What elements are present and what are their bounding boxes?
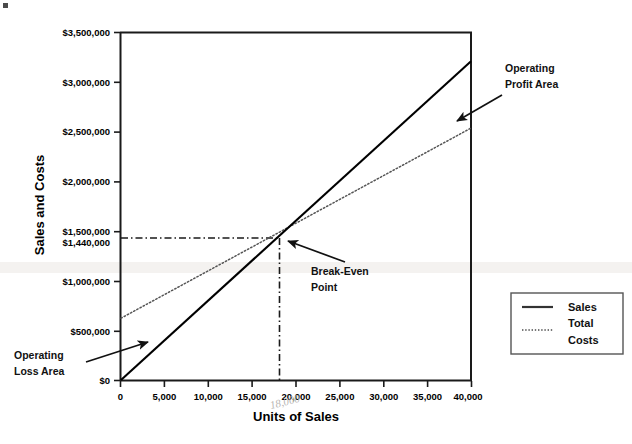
operating-profit-label-line2: Profit Area	[505, 78, 558, 90]
x-axis-ticks	[121, 381, 472, 387]
operating-profit-label-line1: Operating	[505, 62, 555, 74]
x-label-0: 0	[118, 391, 123, 402]
series-total-costs-line	[121, 128, 471, 318]
breakeven-chart: $3,500,000 $3,000,000 $2,500,000 $2,000,…	[0, 0, 632, 444]
break-even-leader-arrow	[288, 241, 345, 262]
y-axis-labels: $3,500,000 $3,000,000 $2,500,000 $2,000,…	[62, 27, 110, 386]
y-label-1000000: $1,000,000	[62, 276, 110, 287]
annotation-operating-loss-area: Operating Loss Area	[14, 342, 148, 377]
operating-loss-label-line2: Loss Area	[14, 365, 65, 377]
break-even-label-line2: Point	[311, 281, 338, 293]
operating-loss-leader-arrow	[86, 342, 148, 362]
break-even-label-line1: Break-Even	[311, 265, 369, 277]
legend-label-total-costs-line1: Total	[568, 317, 593, 329]
y-label-3500000: $3,500,000	[62, 27, 110, 38]
y-axis-title: Sales and Costs	[32, 155, 47, 255]
x-label-10000: 10,000	[194, 391, 223, 402]
y-label-0: $0	[99, 375, 110, 386]
y-label-2000000: $2,000,000	[62, 176, 110, 187]
y-label-2500000: $2,500,000	[62, 126, 110, 137]
y-label-3000000: $3,000,000	[62, 77, 110, 88]
chart-legend: Sales Total Costs	[511, 293, 623, 354]
legend-label-sales: Sales	[568, 301, 597, 313]
x-axis-labels: 0 5,000 10,000 15,000 20,000 25,000 30,0…	[118, 391, 483, 402]
operating-loss-label-line1: Operating	[14, 349, 64, 361]
series-sales-line	[121, 61, 471, 380]
breakeven-chart-screenshot: $3,500,000 $3,000,000 $2,500,000 $2,000,…	[0, 0, 632, 444]
y-label-1500000: $1,500,000	[62, 226, 110, 237]
x-label-35000: 35,000	[413, 391, 442, 402]
x-label-15000: 15,000	[238, 391, 267, 402]
legend-box	[511, 293, 623, 354]
annotation-operating-profit-area: Operating Profit Area	[457, 62, 558, 121]
x-label-5000: 5,000	[153, 391, 177, 402]
x-label-25000: 25,000	[325, 391, 354, 402]
operating-profit-leader-arrow	[457, 95, 502, 121]
x-label-30000: 30,000	[369, 391, 398, 402]
y-label-1440000: $1,440,000	[62, 237, 110, 248]
y-axis-ticks	[114, 33, 120, 381]
plot-frame	[120, 32, 472, 381]
annotation-break-even-point: Break-Even Point	[288, 241, 369, 293]
legend-label-total-costs-line2: Costs	[568, 334, 599, 346]
x-label-40000: 40,000	[453, 391, 482, 402]
y-label-500000: $500,000	[70, 326, 110, 337]
x-axis-title: Units of Sales	[253, 409, 339, 424]
